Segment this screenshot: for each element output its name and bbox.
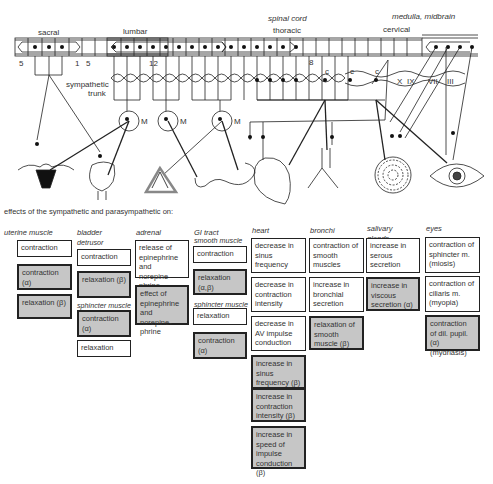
label-ganglion-c2: c [350,67,354,76]
effect-box-shaded: relaxation (β) [17,294,72,319]
label-ganglion-c1: c [325,67,329,76]
effect-box-shaded: increase in speed of impulse conduction … [251,426,306,469]
effect-box-shaded: contraction of dil. pupil. (α) (mydriasi… [425,315,480,351]
header-bladder: bladder [77,228,137,238]
label-cervical: cervical [383,25,410,34]
label-segment-1: 1 [75,59,79,68]
effect-box-shaded: effect of epinephrine and norepine-phrin… [135,285,189,325]
label-nerve-ix: IX [407,77,415,86]
effect-box: decrease in contraction intensity [251,277,306,312]
subheading-smooth-muscle: smooth muscle [194,236,242,245]
subheading-sphincter-muscle: sphincter muscle [77,301,131,310]
effect-box-shaded: contraction (α) [17,264,72,290]
effect-box: relaxation [193,308,247,325]
effect-box: relaxation [77,340,131,357]
subheading-detrusor: detrusor [77,238,103,247]
label-nerve-vii: VII [428,77,438,86]
label-ganglion-c3: c [375,67,379,76]
uterus-icon [18,164,74,188]
label-nerve-iii: III [447,77,454,86]
effects-title: effects of the sympathetic and parasympa… [4,207,173,216]
effect-box-shaded: contraction (α) [193,332,247,359]
label-ganglion-m1: M [141,117,148,126]
effect-box-shaded: relaxation of smooth muscle (β) [309,316,364,350]
effect-box: decrease in AV impulse conduction [251,316,306,351]
effect-box: contraction [77,249,131,266]
effect-box-shaded: relaxation (β) [77,271,131,298]
label-segment-12: 12 [149,59,158,68]
eye-icon [430,164,484,187]
label-segment-5: 5 [19,59,23,68]
adrenal-gland-icon [146,168,176,192]
diagram-svg [0,0,493,205]
label-lumbar: lumbar [123,27,147,36]
heart-icon [254,158,290,204]
label-thoracic: thoracic [273,26,301,35]
effect-box: contraction [17,240,72,257]
header-eyes: eyes [426,224,486,234]
effect-box-shaded: relaxation (α,β) [193,269,247,295]
effect-box: contraction of sphincter m. (miosis) [425,237,480,273]
effect-box: contraction of ciliaris m. (myopia) [425,276,480,312]
bronchi-icon [308,148,338,188]
effect-box: increase in bronchial secretion [309,277,364,312]
label-spinal-cord: spinal cord [268,14,307,23]
effect-box-shaded: contraction (α) [77,310,131,337]
effect-box-shaded: increase in viscous secretion (α) [366,277,420,311]
stomach-icon [195,163,255,187]
label-segment-8: 8 [309,58,313,67]
effect-box: contraction of smooth muscles [309,238,364,273]
effect-box: contraction [193,246,247,263]
effect-box-shaded: increase in contraction intensity (β) [251,388,306,422]
header-heart: heart [252,226,312,236]
header-bronchi: bronchi [310,226,370,236]
salivary-gland-icon [375,157,411,193]
autonomic-nervous-system-diagram: spinal cord medulla, midbrain sacral lum… [0,0,493,205]
label-ganglion-m3: M [234,117,241,126]
effect-box: decrease in sinus frequency [251,238,306,273]
label-sympathetic: sympathetic [66,80,109,89]
label-trunk: trunk [88,89,106,98]
label-nerve-x: X [397,77,402,86]
label-medulla-midbrain: medulla, midbrain [392,12,455,21]
effect-box: release of epinephrine and norepine-phri… [135,240,189,278]
spinal-cord-bar [15,35,478,56]
label-ganglion-m2: M [180,117,187,126]
label-segment-5-lumbar: 5 [86,59,90,68]
header-uterine-muscle: uterine muscle [4,228,74,238]
label-sacral: sacral [38,28,59,37]
effect-box: increase in serous secretion [366,238,420,273]
effect-box-shaded: increase in sinus frequency (β) [251,355,306,389]
